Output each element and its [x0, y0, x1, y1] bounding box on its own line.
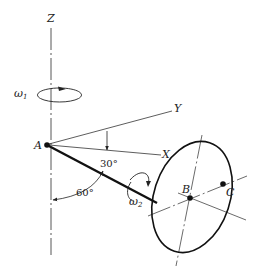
y-axis-label: Y: [174, 102, 183, 115]
omega1-rotation-icon: [37, 87, 81, 102]
rod-ab: [47, 145, 157, 203]
point-c: [220, 181, 226, 187]
x-axis: [49, 145, 161, 155]
point-a-label: A: [33, 139, 42, 152]
rigid-body-diagram: Z ω1 Y X 30° A 60° ω2 B C: [0, 0, 261, 279]
angle-30-label: 30°: [100, 158, 118, 169]
omega1-label: ω1: [14, 87, 27, 101]
y-axis: [49, 111, 172, 144]
point-c-label: C: [226, 186, 235, 199]
point-b-label: B: [181, 183, 190, 196]
angle-60-label: 60°: [76, 187, 94, 198]
point-a: [44, 142, 50, 148]
point-b: [187, 195, 193, 201]
omega2-label: ω2: [129, 195, 143, 209]
z-axis-label: Z: [46, 12, 55, 25]
